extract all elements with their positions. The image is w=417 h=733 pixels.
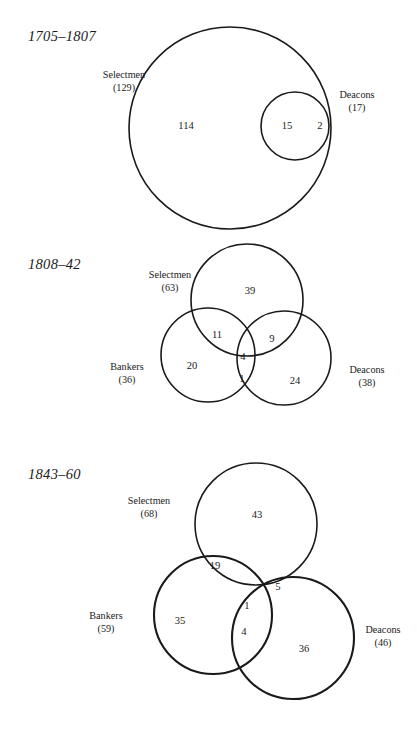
circle-selectmen <box>129 27 331 229</box>
region-selectmen-and-bankers: 11 <box>212 329 222 340</box>
set-count-selectmen: (68) <box>141 508 158 520</box>
circle-selectmen <box>191 244 303 356</box>
set-label-selectmen: Selectmen <box>149 269 191 280</box>
set-count-selectmen: (129) <box>113 82 135 94</box>
region-all-three: 1 <box>244 600 249 611</box>
set-label-selectmen: Selectmen <box>103 69 145 80</box>
region-selectmen-only: 43 <box>252 509 263 520</box>
region-bankers-only: 35 <box>175 615 186 626</box>
region-bankers-only: 20 <box>187 360 198 371</box>
set-label-selectmen: Selectmen <box>128 495 170 506</box>
set-count-deacons: (46) <box>375 637 392 649</box>
set-count-bankers: (59) <box>98 623 115 635</box>
venn-diagram-1: Selectmen (129) Deacons (17) 114 15 2 <box>0 0 417 232</box>
set-label-deacons: Deacons <box>365 624 400 635</box>
set-count-deacons: (38) <box>359 377 376 389</box>
region-deacons-only: 2 <box>317 120 322 131</box>
region-selectmen-only: 39 <box>245 285 256 296</box>
set-count-deacons: (17) <box>349 102 366 114</box>
region-bankers-and-deacons: 4 <box>241 626 247 637</box>
region-selectmen-and-deacons: 15 <box>282 120 293 131</box>
circle-deacons <box>237 311 331 405</box>
circle-deacons <box>232 577 354 699</box>
region-selectmen-and-bankers: 19 <box>210 560 221 571</box>
venn-diagram-2: Selectmen (63) Bankers (36) Deacons (38)… <box>0 232 417 444</box>
venn-panel-1808-42: 1808–42 Selectmen (63) Bankers (36) Deac… <box>0 232 417 444</box>
circle-bankers <box>154 556 272 674</box>
region-selectmen-and-deacons: 9 <box>269 333 274 344</box>
region-deacons-only: 24 <box>290 375 301 386</box>
set-label-deacons: Deacons <box>349 364 384 375</box>
venn-panel-1843-60: 1843–60 Selectmen (68) Bankers (59) Deac… <box>0 444 417 733</box>
venn-figure-page: 1705–1807 Selectmen (129) Deacons (17) 1… <box>0 0 417 733</box>
venn-diagram-3: Selectmen (68) Bankers (59) Deacons (46)… <box>0 444 417 733</box>
set-label-bankers: Bankers <box>89 610 122 621</box>
set-label-deacons: Deacons <box>339 89 374 100</box>
venn-panel-1705-1807: 1705–1807 Selectmen (129) Deacons (17) 1… <box>0 0 417 232</box>
region-all-three: 4 <box>240 351 246 362</box>
set-count-bankers: (36) <box>119 374 136 386</box>
region-bankers-and-deacons: 1 <box>239 373 244 384</box>
set-count-selectmen: (63) <box>162 282 179 294</box>
region-selectmen-only: 114 <box>178 120 194 131</box>
set-label-bankers: Bankers <box>110 361 143 372</box>
region-selectmen-and-deacons: 5 <box>275 581 280 592</box>
region-deacons-only: 36 <box>299 643 310 654</box>
